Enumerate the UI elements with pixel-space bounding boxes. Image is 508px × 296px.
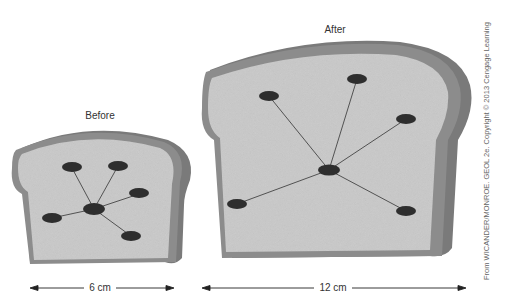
after-title: After bbox=[305, 24, 365, 35]
raisin-center bbox=[83, 203, 105, 215]
raisin bbox=[396, 206, 416, 216]
raisin-bread-diagram bbox=[0, 0, 508, 296]
after-loaf bbox=[202, 41, 472, 258]
raisin bbox=[259, 91, 279, 101]
raisin-center bbox=[318, 165, 340, 176]
after-width-label: 12 cm bbox=[314, 282, 352, 293]
raisin bbox=[347, 74, 367, 84]
before-crumb bbox=[18, 139, 174, 260]
raisin bbox=[129, 188, 149, 198]
raisin bbox=[42, 213, 62, 223]
before-loaf bbox=[12, 131, 191, 264]
copyright-credit: From WICANDER/MONROE. GEOL 2e. Copyright… bbox=[482, 22, 491, 280]
before-title: Before bbox=[70, 110, 130, 121]
raisin bbox=[396, 114, 416, 124]
before-width-label: 6 cm bbox=[84, 282, 116, 293]
after-crumb bbox=[208, 54, 448, 252]
raisin bbox=[108, 161, 128, 171]
raisin bbox=[121, 231, 141, 241]
raisin bbox=[62, 162, 82, 172]
raisin bbox=[227, 199, 247, 209]
